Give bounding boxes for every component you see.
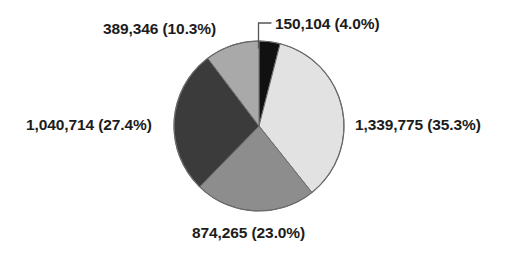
pie-label-150104: 150,104 (4.0%): [275, 15, 380, 32]
pie-label-1339775: 1,339,775 (35.3%): [355, 116, 481, 133]
pie-chart: 389,346 (10.3%) 150,104 (4.0%) 1,339,775…: [0, 0, 523, 257]
pie-label-389346: 389,346 (10.3%): [103, 20, 216, 37]
pie-label-1040714: 1,040,714 (27.4%): [26, 116, 152, 133]
pie-slice-group: [174, 41, 344, 211]
pie-label-874265: 874,265 (23.0%): [192, 224, 305, 241]
